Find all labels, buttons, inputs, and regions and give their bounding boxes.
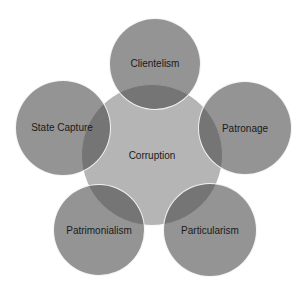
label-state-capture: State Capture <box>31 122 93 133</box>
label-corruption: Corruption <box>129 150 176 161</box>
corruption-diagram: Corruption Clientelism Patronage Particu… <box>0 0 307 285</box>
label-patronage: Patronage <box>222 123 268 134</box>
label-clientelism: Clientelism <box>131 58 180 69</box>
label-patrimonialism: Patrimonialism <box>66 225 132 236</box>
label-particularism: Particularism <box>181 225 239 236</box>
